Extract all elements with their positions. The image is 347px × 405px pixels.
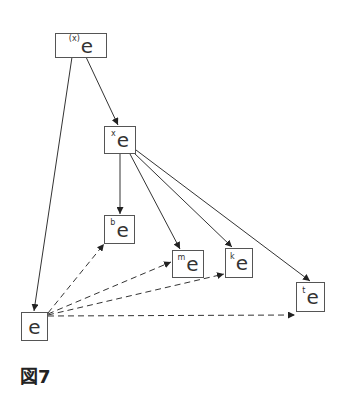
diagram-edges [0, 0, 347, 405]
edge-e-to-t [48, 315, 295, 316]
node-t: t e [296, 282, 325, 312]
figure-caption: 図7 [20, 362, 51, 388]
node-top-superscript: (x) [69, 34, 80, 43]
edge-x-to-k [133, 152, 232, 247]
node-t-superscript: t [302, 286, 305, 295]
node-k-superscript: k [230, 252, 235, 261]
node-m: m e [172, 250, 204, 278]
edge-x-to-m [130, 154, 180, 249]
node-b: b e [104, 215, 135, 244]
node-k-label: e [236, 253, 248, 273]
node-top-label: e [81, 36, 93, 56]
node-b-label: e [116, 220, 128, 240]
node-m-label: e [186, 254, 198, 274]
node-t-label: e [306, 287, 318, 307]
node-e: e [21, 312, 48, 341]
edge-top-to-e [34, 57, 72, 311]
node-e-label: e [28, 317, 40, 337]
edge-e-to-m [48, 262, 171, 314]
node-b-superscript: b [110, 218, 115, 227]
node-x-label: e [117, 130, 129, 150]
edge-top-to-x [86, 57, 118, 125]
node-x: x e [104, 126, 136, 154]
node-m-superscript: m [177, 253, 185, 262]
node-x-superscript: x [111, 129, 116, 138]
node-k: k e [225, 248, 253, 278]
node-top: (x) e [55, 33, 107, 58]
